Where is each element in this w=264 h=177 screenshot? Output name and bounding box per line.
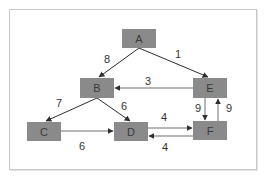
weight-f-e: 9 (226, 102, 232, 114)
weight-b-d: 6 (121, 100, 127, 112)
weight-f-d: 4 (162, 141, 168, 153)
weight-b-c: 7 (56, 97, 62, 109)
edge-a-e (139, 48, 208, 77)
node-f-label: F (207, 125, 214, 137)
weight-e-b: 3 (145, 75, 151, 87)
graph-canvas: A B E C D F 8 1 3 7 6 6 4 4 9 9 (0, 0, 264, 177)
node-a: A (122, 29, 156, 48)
node-d: D (114, 122, 148, 141)
weight-e-f: 9 (195, 102, 201, 114)
node-b: B (80, 78, 114, 98)
node-a-label: A (135, 33, 143, 45)
weight-a-b: 8 (104, 53, 110, 65)
node-f: F (193, 121, 227, 140)
weight-d-f: 4 (161, 111, 167, 123)
node-b-label: B (93, 82, 100, 94)
node-c-label: C (40, 126, 48, 138)
node-d-label: D (127, 126, 135, 138)
weight-c-d: 6 (79, 140, 85, 152)
node-c: C (27, 122, 61, 141)
edge-b-c (46, 98, 97, 121)
node-e-label: E (206, 82, 213, 94)
weight-a-e: 1 (175, 48, 181, 60)
node-e: E (193, 78, 227, 98)
